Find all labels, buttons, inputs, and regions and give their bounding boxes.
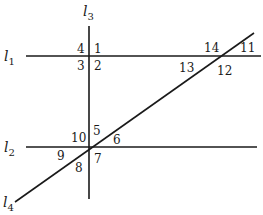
line-l4: [15, 33, 254, 202]
angle-3: 3: [77, 59, 85, 73]
diagram-svg: l1 l2 l3 l4 4 1 3 2 14 11 13 12 10 5 6 9…: [0, 0, 263, 215]
angle-12: 12: [217, 64, 232, 78]
angle-14: 14: [204, 41, 220, 55]
angle-7: 7: [94, 152, 102, 166]
angle-13: 13: [179, 61, 194, 75]
label-l3: l3: [83, 3, 94, 22]
angle-5: 5: [93, 124, 101, 138]
angle-9: 9: [57, 149, 65, 163]
angle-2: 2: [94, 59, 102, 73]
angle-4: 4: [77, 42, 85, 56]
label-l4: l4: [3, 194, 14, 213]
angle-8: 8: [75, 161, 83, 175]
geometry-diagram: l1 l2 l3 l4 4 1 3 2 14 11 13 12 10 5 6 9…: [0, 0, 263, 215]
angle-11: 11: [240, 41, 255, 55]
label-l1: l1: [4, 48, 15, 67]
angle-1: 1: [94, 42, 102, 56]
label-l2: l2: [4, 139, 15, 158]
angle-6: 6: [113, 133, 121, 147]
angle-10: 10: [71, 131, 86, 145]
